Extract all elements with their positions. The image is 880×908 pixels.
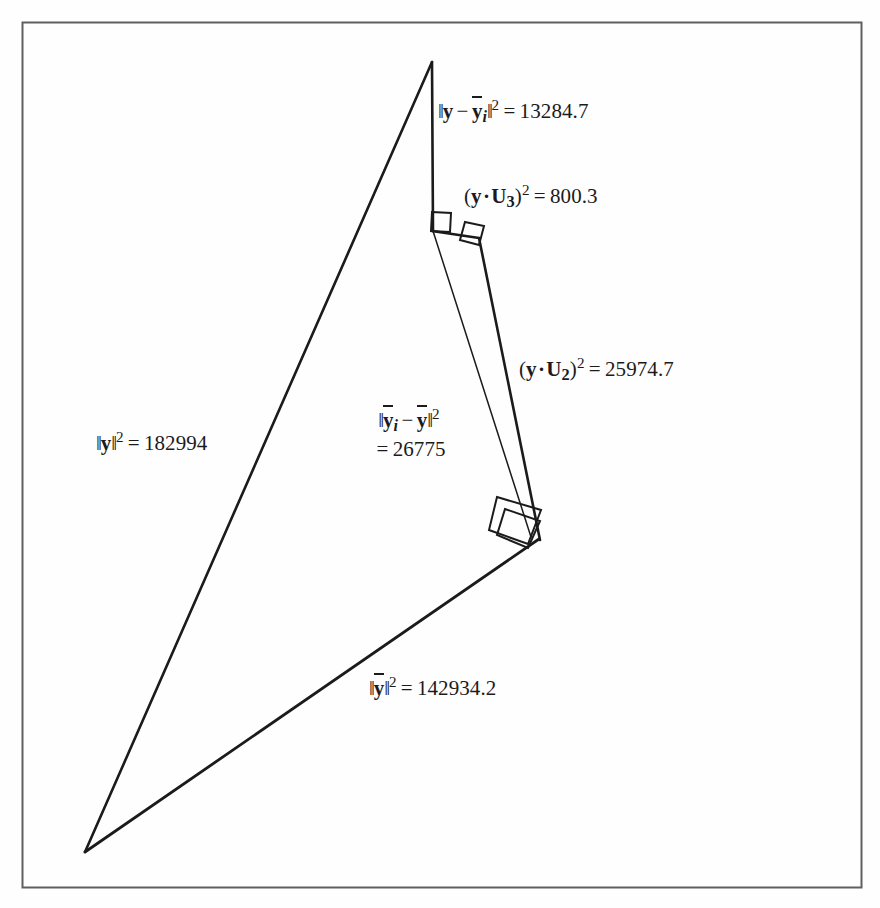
figure-container: ‖y−yi‖2=13284.7 (y·U3)2=800.3 (y·U2)2=25… bbox=[0, 0, 880, 908]
u2-edge-line bbox=[479, 238, 540, 540]
y-minus-ybar-i-edge-line bbox=[432, 62, 433, 231]
right-angle-mark-elbow bbox=[460, 222, 484, 245]
figure-border bbox=[23, 23, 862, 888]
geometry-diagram bbox=[0, 0, 880, 908]
ybar-i-minus-ybar-edge-line bbox=[433, 231, 531, 537]
